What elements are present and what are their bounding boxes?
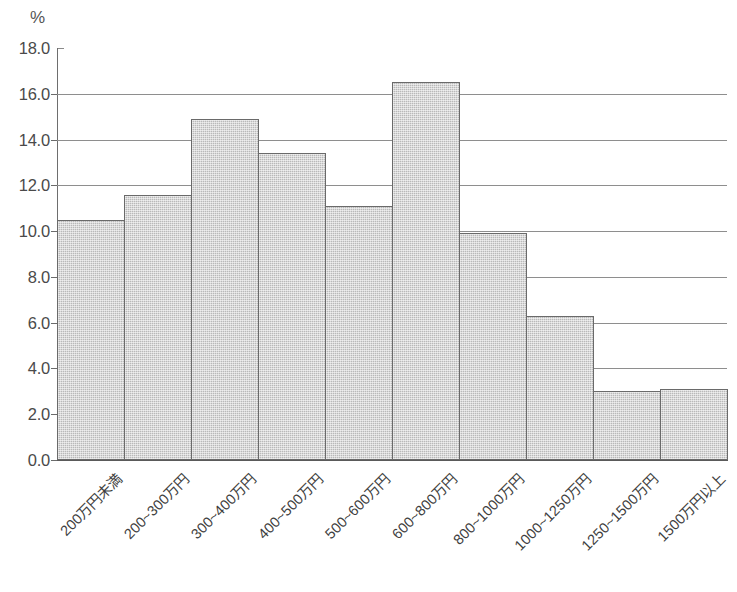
y-axis-tick-label: 4.0	[2, 359, 50, 378]
y-axis-tick-mark	[51, 277, 57, 278]
bar	[660, 389, 728, 460]
bar	[258, 153, 326, 460]
bar	[124, 195, 192, 461]
x-axis-category-label: 1500万円以上	[651, 468, 728, 545]
bar	[325, 206, 393, 460]
bars-group	[57, 48, 727, 460]
y-axis-tick-label: 2.0	[2, 405, 50, 424]
x-axis-labels-group: 200万円未満200~300万円300~400万円400~500万円500~60…	[57, 460, 727, 592]
bar	[392, 82, 460, 460]
y-axis-tick-mark	[51, 231, 57, 232]
y-axis-tick-label: 18.0	[2, 39, 50, 58]
x-axis-category-label: 500~600万円	[319, 468, 394, 543]
y-axis-tick-mark	[51, 460, 57, 461]
y-axis-tick-mark	[51, 94, 57, 95]
y-axis-tick-mark	[51, 368, 57, 369]
y-axis-tick-mark	[51, 323, 57, 324]
x-axis-category-label: 400~500万円	[252, 468, 327, 543]
y-axis-tick-mark	[51, 185, 57, 186]
bar	[593, 391, 661, 460]
bar	[459, 233, 527, 460]
y-axis-tick-label: 12.0	[2, 176, 50, 195]
y-axis-tick-label: 6.0	[2, 313, 50, 332]
bar	[526, 316, 594, 460]
bar	[57, 220, 125, 460]
y-axis-tick-mark	[51, 140, 57, 141]
y-axis-ticks-group: 0.02.04.06.08.010.012.014.016.018.0	[0, 0, 50, 592]
x-axis-category-label: 300~400万円	[185, 468, 260, 543]
y-axis-tick-label: 10.0	[2, 222, 50, 241]
y-axis-tick-mark	[51, 414, 57, 415]
x-axis-category-label: 200~300万円	[118, 468, 193, 543]
y-axis-tick-label: 14.0	[2, 130, 50, 149]
y-axis-tick-label: 8.0	[2, 267, 50, 286]
x-axis-category-label: 200万円未満	[54, 468, 126, 540]
bar	[191, 119, 259, 460]
histogram-chart: % 0.02.04.06.08.010.012.014.016.018.0 20…	[0, 0, 737, 592]
y-axis-tick-label: 0.0	[2, 451, 50, 470]
y-axis-tick-label: 16.0	[2, 84, 50, 103]
